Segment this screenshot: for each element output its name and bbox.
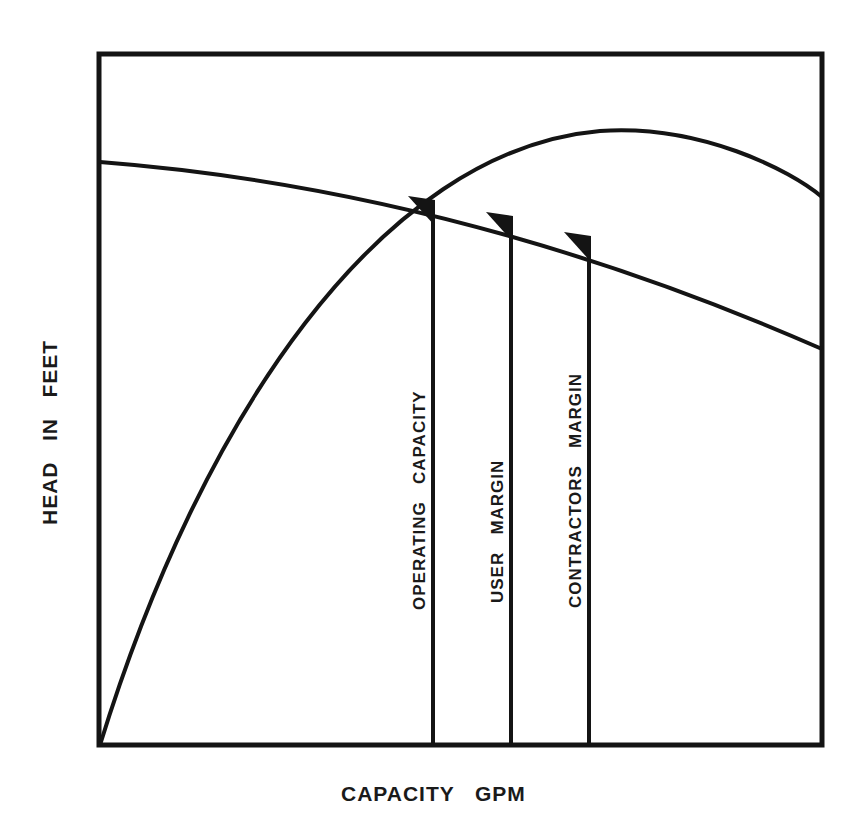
x-axis-label: CAPACITY GPM	[341, 782, 526, 805]
chart-canvas: OPERATING CAPACITY USER MARGIN CONTRACTO…	[0, 0, 859, 827]
head-capacity-curve	[100, 162, 822, 349]
y-axis-label: HEAD IN FEET	[38, 340, 61, 525]
contractors-margin-label: CONTRACTORS MARGIN	[566, 373, 585, 608]
operating-capacity-label: OPERATING CAPACITY	[410, 390, 429, 610]
plot-frame	[99, 54, 822, 745]
pump-curve-figure: OPERATING CAPACITY USER MARGIN CONTRACTO…	[0, 0, 859, 827]
user-margin-marker-icon	[486, 212, 513, 242]
user-margin-label: USER MARGIN	[488, 460, 507, 603]
